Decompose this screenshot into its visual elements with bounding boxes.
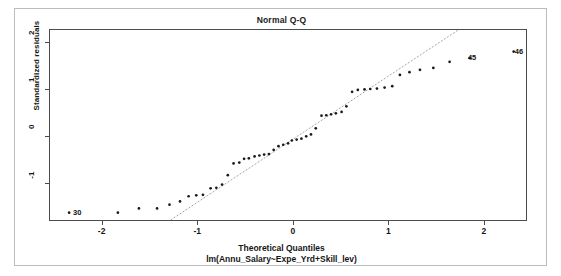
point-label: 46 [515, 47, 523, 56]
data-point [340, 111, 343, 114]
data-points [68, 50, 515, 214]
data-point [310, 133, 313, 136]
data-point [383, 86, 386, 89]
data-point [277, 145, 280, 148]
data-point [399, 74, 402, 77]
data-point [282, 143, 285, 146]
data-point [117, 211, 120, 214]
data-point [248, 157, 251, 160]
x-tick-label: 2 [469, 226, 499, 236]
data-point [334, 112, 337, 115]
x-axis-sublabel: lm(Annu_Salary~Expe_Yrd+Skill_lev) [15, 254, 548, 264]
point-label: 30 [73, 208, 81, 217]
data-point [356, 89, 359, 92]
data-point [330, 113, 333, 116]
x-axis-label: Theoretical Quantiles [15, 243, 548, 253]
data-point [232, 162, 235, 165]
data-point [195, 194, 198, 197]
data-point [179, 200, 182, 203]
data-point [156, 207, 159, 210]
data-point [263, 153, 266, 156]
data-point [345, 105, 348, 108]
x-tick-mark [197, 221, 198, 225]
data-point [238, 161, 241, 164]
data-point [391, 85, 394, 88]
y-tick-label: -1 [27, 171, 36, 193]
data-point [258, 154, 261, 157]
data-point [268, 153, 271, 156]
reference-line [168, 30, 459, 221]
x-tick-label: 1 [373, 226, 403, 236]
y-tick-label: 1 [27, 77, 36, 99]
data-point [226, 174, 229, 177]
data-point [325, 114, 328, 117]
data-point [351, 90, 354, 93]
point-label: 45 [468, 53, 476, 62]
data-point [419, 68, 422, 71]
plot-title: Normal Q-Q [15, 15, 548, 25]
data-point [215, 186, 218, 189]
y-tick-label: 2 [27, 31, 36, 53]
data-point [300, 137, 303, 140]
data-point [272, 149, 275, 152]
data-point [376, 87, 379, 90]
data-point [448, 60, 451, 63]
x-tick-mark [484, 221, 485, 225]
data-point [68, 211, 71, 214]
figure-frame: Normal Q-Q Standardized residuals -1012 … [14, 8, 547, 266]
data-point [187, 195, 190, 198]
plot-area: 304546 [49, 29, 527, 221]
data-point [138, 207, 141, 210]
data-point [305, 135, 308, 138]
data-point [287, 142, 290, 145]
y-axis-label: Standardized residuals [32, 6, 41, 126]
data-point [253, 155, 256, 158]
data-point [408, 71, 411, 74]
qq-scatter-svg [50, 30, 527, 221]
data-point [209, 187, 212, 190]
x-tick-label: -2 [87, 226, 117, 236]
data-point [295, 138, 298, 141]
y-tick-label: 0 [27, 124, 36, 146]
data-point [168, 203, 171, 206]
x-tick-label: -1 [182, 226, 212, 236]
data-point [314, 127, 317, 130]
data-point [432, 67, 435, 70]
data-point [320, 114, 323, 117]
data-point [221, 183, 224, 186]
x-tick-mark [102, 221, 103, 225]
x-tick-mark [293, 221, 294, 225]
x-tick-label: 0 [278, 226, 308, 236]
data-point [369, 88, 372, 91]
data-point [243, 157, 246, 160]
data-point [291, 139, 294, 142]
x-tick-mark [388, 221, 389, 225]
data-point [363, 88, 366, 91]
data-point [202, 193, 205, 196]
